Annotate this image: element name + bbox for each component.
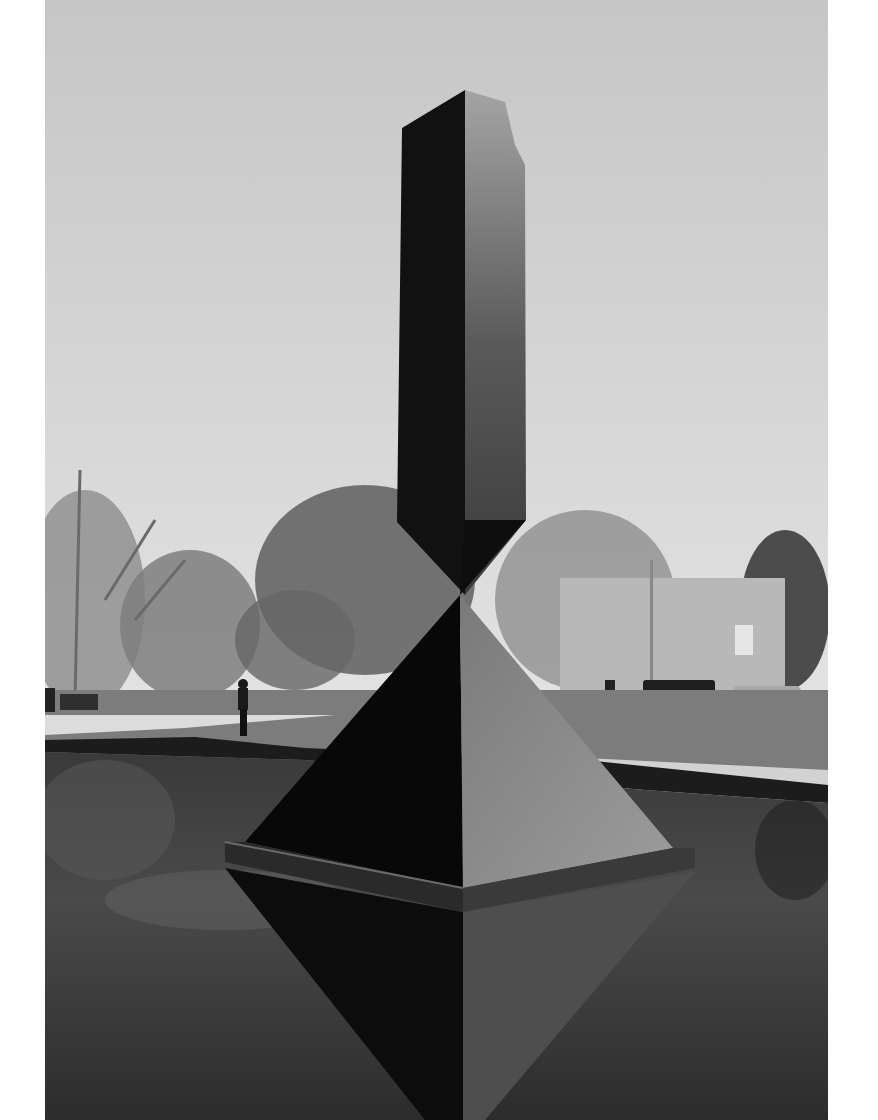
obelisk-left-face <box>397 90 465 595</box>
photograph <box>45 0 828 1120</box>
pedestrian-left <box>45 688 55 712</box>
scene <box>45 0 828 1120</box>
park-bench <box>60 694 98 710</box>
obelisk <box>397 90 526 595</box>
obelisk-right-face <box>465 90 526 595</box>
